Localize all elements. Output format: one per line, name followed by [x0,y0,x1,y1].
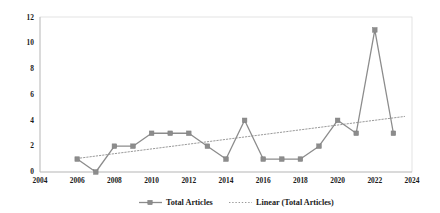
x-tick-label: 2008 [107,176,122,185]
data-point-marker [317,144,322,149]
x-tick-label: 2022 [367,176,382,185]
y-tick-label: 10 [27,38,35,47]
legend-label-total-articles: Total Articles [166,198,213,207]
x-tick-label: 2010 [144,176,159,185]
data-point-marker [112,144,117,149]
data-point-marker [261,157,266,162]
data-point-marker [75,157,80,162]
data-point-marker [224,157,229,162]
data-point-marker [205,144,210,149]
data-point-marker [149,131,154,136]
line-chart-plot: 12 10 8 6 4 2 0 2004 2006 2008 2010 2012… [0,0,440,213]
y-tick-label: 8 [30,64,34,73]
chart-container: 12 10 8 6 4 2 0 2004 2006 2008 2010 2012… [0,0,440,213]
data-point-marker [94,170,99,175]
y-tick-label: 2 [30,141,34,150]
data-point-marker [280,157,285,162]
data-point-marker [373,28,378,33]
x-tick-label: 2014 [219,176,234,185]
data-point-marker [168,131,173,136]
x-tick-label: 2012 [181,176,196,185]
legend-marker-square-total-articles [148,200,152,204]
y-tick-label: 4 [30,116,34,125]
data-point-marker [298,157,303,162]
x-tick-label: 2006 [70,176,85,185]
data-point-marker [391,131,396,136]
data-point-marker [354,131,359,136]
data-point-marker [131,144,136,149]
data-point-marker [187,131,192,136]
x-tick-label: 2004 [33,176,48,185]
x-tick-label: 2020 [330,176,345,185]
legend-label-linear-total-articles: Linear (Total Articles) [256,198,334,207]
x-tick-label: 2024 [405,176,420,185]
x-tick-label: 2018 [293,176,308,185]
data-point-marker [335,118,340,123]
data-point-marker [242,118,247,123]
x-tick-label: 2016 [256,176,271,185]
y-tick-label: 12 [27,13,35,22]
y-tick-label: 6 [30,90,34,99]
